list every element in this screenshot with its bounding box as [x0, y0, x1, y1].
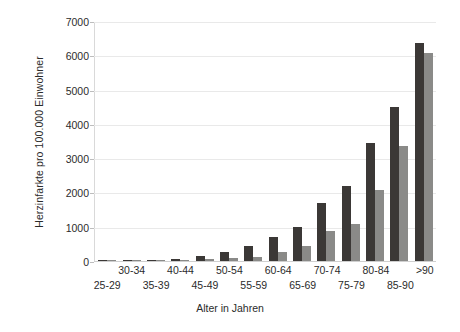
bar-group — [266, 22, 290, 261]
bar-group — [290, 22, 314, 261]
bar — [132, 260, 141, 261]
bar — [196, 256, 205, 261]
y-axis-tick-mark — [90, 193, 94, 194]
bar — [326, 231, 335, 261]
y-axis-tick-label: 7000 — [66, 16, 89, 28]
x-axis-tick-label: 75-79 — [338, 279, 365, 291]
bar — [278, 252, 287, 261]
bar-group — [95, 22, 119, 261]
y-axis-tick-label: 5000 — [66, 85, 89, 97]
bar — [123, 260, 132, 261]
y-axis-title: Herzinfarkte pro 100.000 Einwohner — [33, 17, 45, 267]
x-axis-tick-label: 85-90 — [387, 279, 414, 291]
bar-group — [314, 22, 338, 261]
y-axis-tick-label: 2000 — [66, 187, 89, 199]
x-axis-tick-label: 40-44 — [167, 264, 194, 276]
bar — [171, 259, 180, 261]
bar — [269, 237, 278, 261]
x-axis-tick-label: 35-39 — [143, 279, 170, 291]
bar-group — [363, 22, 387, 261]
bar — [229, 258, 238, 261]
y-axis-tick-mark — [90, 228, 94, 229]
bar — [351, 224, 360, 261]
bar-groups — [95, 22, 436, 261]
bar — [220, 252, 229, 261]
bar-chart: Herzinfarkte pro 100.000 Einwohner 01000… — [0, 0, 460, 332]
bar — [107, 260, 116, 261]
bar — [317, 203, 326, 261]
bar — [147, 260, 156, 261]
x-axis-tick-label: 70-74 — [314, 264, 341, 276]
bar-group — [339, 22, 363, 261]
x-axis-tick-label: 65-69 — [289, 279, 316, 291]
bar — [366, 143, 375, 261]
y-axis-tick-label: 3000 — [66, 153, 89, 165]
bar — [253, 257, 262, 261]
x-axis-tick-label: 60-64 — [265, 264, 292, 276]
y-axis-tick-mark — [90, 262, 94, 263]
x-axis-tick-label: 50-54 — [216, 264, 243, 276]
y-axis-tick-mark — [90, 125, 94, 126]
x-axis-line — [94, 261, 436, 262]
y-axis-tick-label: 0 — [83, 256, 89, 268]
x-axis-tick-labels: 25-2930-3435-3940-4445-4950-5455-5960-64… — [95, 264, 437, 298]
bar — [180, 260, 189, 261]
y-axis-tick-mark — [90, 22, 94, 23]
x-axis-tick-label: >90 — [416, 264, 434, 276]
bar — [293, 227, 302, 261]
bar — [390, 107, 399, 261]
bar — [424, 53, 433, 261]
x-axis-tick-label: 25-29 — [94, 279, 121, 291]
bar-group — [387, 22, 411, 261]
x-axis-tick-label: 80-84 — [362, 264, 389, 276]
bar — [342, 186, 351, 261]
y-axis-tick-mark — [90, 159, 94, 160]
y-axis-tick-label: 6000 — [66, 50, 89, 62]
x-axis-tick-label: 55-59 — [240, 279, 267, 291]
bar — [156, 260, 165, 261]
bar-group — [412, 22, 436, 261]
bar-group — [217, 22, 241, 261]
bar-group — [168, 22, 192, 261]
x-axis-title: Alter in Jahren — [0, 302, 460, 314]
bar — [302, 246, 311, 261]
x-axis-tick-label: 45-49 — [191, 279, 218, 291]
bar-group — [192, 22, 216, 261]
bar-group — [144, 22, 168, 261]
bar-group — [241, 22, 265, 261]
bar — [399, 146, 408, 261]
bar — [205, 259, 214, 261]
y-axis-tick-mark — [90, 56, 94, 57]
bar — [244, 246, 253, 261]
y-axis-tick-mark — [90, 91, 94, 92]
y-axis-tick-label: 4000 — [66, 119, 89, 131]
y-axis-tick-label: 1000 — [66, 222, 89, 234]
bar-group — [119, 22, 143, 261]
plot-area: 01000200030004000500060007000 — [94, 22, 436, 262]
bar — [415, 43, 424, 261]
bar — [375, 190, 384, 261]
bar — [98, 260, 107, 261]
x-axis-tick-label: 30-34 — [118, 264, 145, 276]
